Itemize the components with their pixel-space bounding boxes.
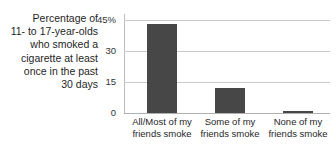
y-axis-tick-label: 30 <box>0 46 120 56</box>
category-label-line: friends smoke <box>254 128 336 140</box>
bar[interactable] <box>215 88 245 113</box>
gridline <box>124 20 330 21</box>
x-axis-category-label: None of myfriends smoke <box>254 116 336 139</box>
category-label-line: None of my <box>254 116 336 128</box>
bar[interactable] <box>283 111 313 113</box>
x-axis-category-labels: All/Most of myfriends smokeSome of myfri… <box>124 116 336 145</box>
y-axis-tick-labels: 45%30150 <box>0 0 120 145</box>
y-axis-line <box>124 14 125 113</box>
gridline <box>124 113 330 114</box>
chart-figure: Percentage of 11- to 17-year-olds who sm… <box>0 0 336 145</box>
bar[interactable] <box>147 24 177 113</box>
y-axis-tick-label: 15 <box>0 77 120 87</box>
y-axis-tick-label: 0 <box>0 108 120 118</box>
y-axis-tick-label: 45% <box>0 15 120 25</box>
plot-area <box>124 14 330 113</box>
